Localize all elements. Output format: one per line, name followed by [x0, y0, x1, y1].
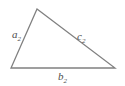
- triangle-diagram: a2 c2 b2: [0, 0, 125, 86]
- triangle-outline: [11, 9, 115, 68]
- side-label-b-subscript: 2: [64, 77, 68, 85]
- side-label-c-subscript: 2: [82, 37, 86, 45]
- side-label-b: b2: [58, 70, 68, 85]
- side-label-a-subscript: 2: [18, 35, 22, 43]
- side-label-c: c2: [77, 30, 86, 45]
- side-label-a: a2: [12, 28, 22, 43]
- triangle-canvas: a2 c2 b2: [0, 0, 125, 86]
